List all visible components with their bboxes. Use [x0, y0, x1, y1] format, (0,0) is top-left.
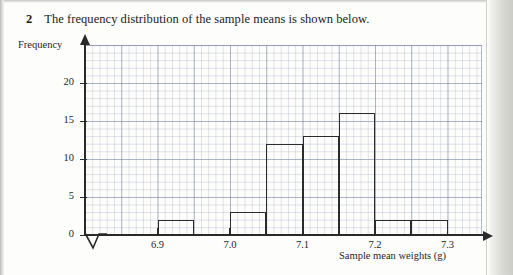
y-tick-label: 15 [48, 114, 74, 125]
histogram-bar [303, 136, 339, 235]
y-axis-line [84, 42, 86, 236]
y-axis-label: Frequency [18, 39, 62, 50]
y-tick-label: 0 [48, 228, 74, 239]
question-number: 2 [26, 12, 32, 27]
page-top-edge [0, 0, 513, 3]
x-tick-label: 7.1 [286, 239, 320, 250]
y-axis-arrow-icon [80, 34, 90, 45]
frequency-histogram: Frequency Sample mean weights (g) 051015… [0, 36, 513, 266]
y-tick-mark [80, 83, 87, 85]
y-tick-mark [80, 197, 87, 199]
histogram-bar [266, 144, 302, 235]
y-tick-label: 5 [48, 190, 74, 201]
x-axis-arrow-icon [483, 231, 493, 241]
y-tick-mark [80, 159, 87, 161]
y-tick-label: 10 [48, 152, 74, 163]
histogram-bar [158, 220, 194, 235]
question-text: The frequency distribution of the sample… [44, 12, 369, 27]
axis-break-icon [84, 232, 110, 254]
x-tick-label: 7.0 [213, 239, 247, 250]
question-header: 2 The frequency distribution of the samp… [26, 12, 369, 27]
x-tick-label: 7.3 [431, 239, 465, 250]
scanned-page: 2 The frequency distribution of the samp… [0, 0, 513, 275]
y-tick-mark [80, 121, 87, 123]
y-tick-label: 20 [48, 76, 74, 87]
x-axis-label: Sample mean weights (g) [339, 250, 446, 261]
histogram-bar [339, 113, 375, 235]
y-tick-mark [80, 235, 87, 237]
histogram-bar [375, 220, 411, 235]
histogram-bar [230, 212, 266, 235]
histogram-bar [411, 220, 447, 235]
x-tick-label: 6.9 [141, 239, 175, 250]
x-tick-label: 7.2 [358, 239, 392, 250]
